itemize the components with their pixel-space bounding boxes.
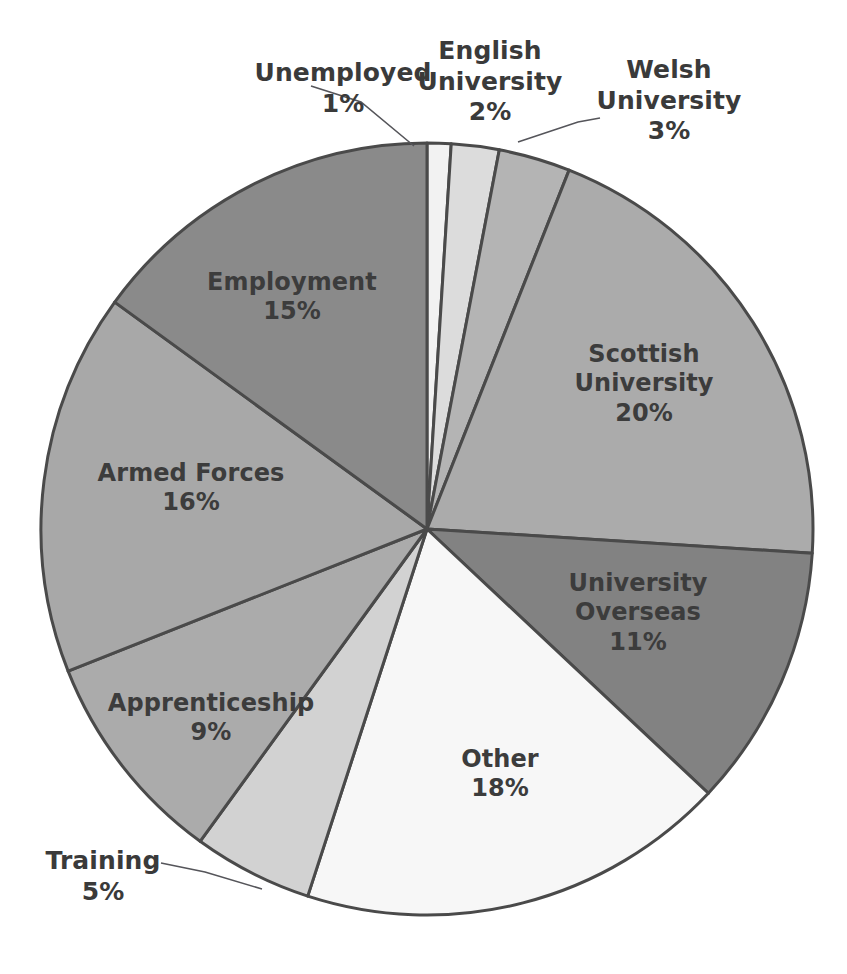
leader-line-welsh-university: [518, 118, 600, 142]
pie-chart-canvas: [0, 0, 847, 974]
pie-chart-figure: · · Unemployed1%English University2%Wels…: [0, 0, 847, 974]
pie-slices-group: [41, 143, 813, 915]
leader-line-unemployed: [311, 86, 414, 146]
